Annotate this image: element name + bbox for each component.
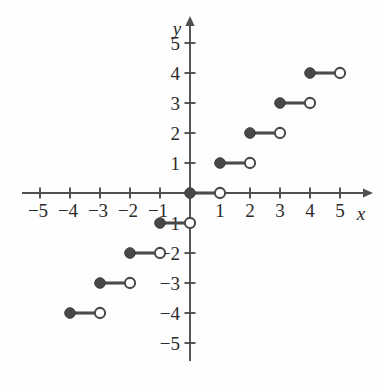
open-endpoint-2-1 [245, 158, 255, 168]
step-function-figure: −5−4−3−2−11234554321−1−2−3−4−5 xy [0, 0, 382, 387]
y-axis-arrowhead [185, 16, 194, 26]
closed-endpoint-3-3 [275, 98, 286, 109]
closed-endpoint-1-1 [215, 158, 226, 169]
open-endpoint-3-2 [275, 128, 285, 138]
y-tick-label-4: 4 [171, 63, 181, 84]
open-endpoint--2--3 [125, 278, 135, 288]
open-endpoint-5-4 [335, 68, 345, 78]
closed-endpoint-4-4 [305, 68, 316, 79]
x-tick-label--5: −5 [28, 200, 48, 221]
x-tick-label-3: 3 [275, 200, 285, 221]
axes-group [22, 16, 373, 361]
x-axis-arrowhead [363, 188, 373, 197]
y-tick-label-1: 1 [171, 153, 181, 174]
x-tick-label--4: −4 [58, 200, 79, 221]
x-tick-label-5: 5 [335, 200, 345, 221]
y-tick-label-3: 3 [171, 93, 181, 114]
x-axis-name: x [356, 203, 366, 224]
y-tick-label--3: −3 [160, 273, 180, 294]
closed-endpoint--1--1 [155, 218, 166, 229]
closed-endpoint--4--4 [65, 308, 76, 319]
closed-endpoint--2--2 [125, 248, 136, 259]
y-tick-label--5: −5 [160, 333, 180, 354]
y-tick-label--4: −4 [160, 303, 181, 324]
x-tick-label--3: −3 [88, 200, 108, 221]
closed-endpoint-2-2 [245, 128, 256, 139]
graph-canvas: −5−4−3−2−11234554321−1−2−3−4−5 xy [0, 0, 382, 387]
open-endpoint-4-3 [305, 98, 315, 108]
open-endpoint--3--4 [95, 308, 105, 318]
closed-endpoint-0-0 [185, 188, 196, 199]
x-tick-label-2: 2 [245, 200, 255, 221]
x-tick-label-1: 1 [215, 200, 225, 221]
y-tick-label-2: 2 [171, 123, 181, 144]
open-endpoint--1--2 [155, 248, 165, 258]
x-tick-label-4: 4 [305, 200, 315, 221]
x-tick-label--2: −2 [118, 200, 138, 221]
closed-endpoint--3--3 [95, 278, 106, 289]
open-endpoint-0--1 [185, 218, 195, 228]
y-axis-name: y [171, 18, 182, 39]
open-endpoint-1-0 [215, 188, 225, 198]
